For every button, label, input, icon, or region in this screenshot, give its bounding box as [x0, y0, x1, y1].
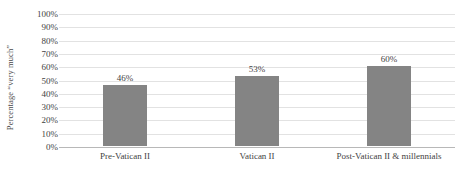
bar-group[interactable]: 60%: [323, 14, 455, 147]
x-axis-category-labels: Pre-Vatican IIVatican IIPost-Vatican II …: [59, 150, 455, 170]
bar[interactable]: [367, 66, 411, 146]
x-axis-category-label: Vatican II: [239, 150, 274, 162]
y-axis-title: Percentage “very much”: [0, 0, 20, 175]
y-axis-tick-label: 90%: [20, 22, 58, 33]
y-axis-tick-label: 40%: [20, 88, 58, 99]
y-axis-tick-label: 60%: [20, 62, 58, 73]
y-axis-tick-label: 0%: [20, 142, 58, 153]
y-axis-tick-label: 30%: [20, 102, 58, 113]
y-axis-tick-label: 80%: [20, 35, 58, 46]
y-axis-tick-label: 20%: [20, 115, 58, 126]
bar[interactable]: [235, 76, 279, 146]
bar-value-label: 53%: [249, 64, 266, 75]
y-axis-tick-label: 10%: [20, 128, 58, 139]
bar-value-label: 60%: [381, 54, 398, 65]
y-axis-tick-labels: 0%10%20%30%40%50%60%70%80%90%100%: [20, 8, 58, 153]
gridline: [59, 147, 455, 148]
y-axis-tick-label: 50%: [20, 75, 58, 86]
bar[interactable]: [103, 85, 147, 146]
bar-chart: Percentage “very much” 0%10%20%30%40%50%…: [0, 0, 462, 175]
y-axis-tick-label: 70%: [20, 48, 58, 59]
bar-group[interactable]: 46%: [59, 14, 191, 147]
plot-area: 46%53%60%: [59, 14, 455, 147]
y-axis-tick-label: 100%: [20, 9, 58, 20]
bar-group[interactable]: 53%: [191, 14, 323, 147]
x-axis-category-label: Pre-Vatican II: [100, 150, 150, 162]
bars-layer: 46%53%60%: [59, 14, 455, 147]
bar-value-label: 46%: [117, 73, 134, 84]
x-axis-category-label: Post-Vatican II & millennials: [336, 150, 441, 162]
